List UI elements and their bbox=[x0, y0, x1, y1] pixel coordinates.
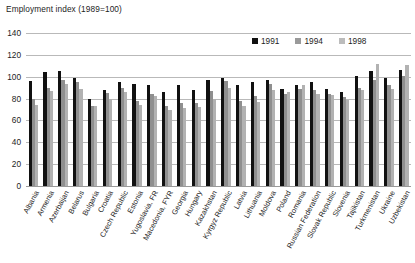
legend-swatch-icon bbox=[295, 38, 301, 44]
x-label-slot: Slovak Republic bbox=[322, 188, 337, 262]
bar-group bbox=[159, 33, 174, 186]
legend-item: 1991 bbox=[252, 36, 279, 46]
bar bbox=[391, 89, 394, 186]
bar-group bbox=[100, 33, 115, 186]
bar bbox=[139, 105, 142, 186]
bar bbox=[405, 65, 408, 186]
y-tick-label-0: 0 bbox=[16, 181, 21, 191]
employment-index-chart: Employment index (1989=100) 020406080100… bbox=[0, 0, 415, 263]
bar-group bbox=[115, 33, 130, 186]
bar bbox=[35, 105, 38, 186]
chart-legend: 199119941998 bbox=[252, 36, 366, 46]
gridline-0 bbox=[26, 186, 411, 187]
bar bbox=[213, 99, 216, 186]
bar bbox=[65, 84, 68, 186]
bar bbox=[94, 106, 97, 186]
bar-group bbox=[382, 33, 397, 186]
bar bbox=[228, 88, 231, 186]
x-label-slot: Macedonia, FYR bbox=[159, 188, 174, 262]
bar bbox=[124, 92, 127, 186]
x-label-slot: Lithuania bbox=[248, 188, 263, 262]
x-label-slot: Azerbaijan bbox=[56, 188, 71, 262]
bar-group bbox=[396, 33, 411, 186]
bar-group bbox=[307, 33, 322, 186]
x-label-slot: Belarus bbox=[70, 188, 85, 262]
bar-group bbox=[85, 33, 100, 186]
x-label-slot: Armenia bbox=[41, 188, 56, 262]
chart-title: Employment index (1989=100) bbox=[6, 4, 122, 14]
x-label-slot: Slovenia bbox=[337, 188, 352, 262]
y-tick-label-100: 100 bbox=[7, 72, 21, 82]
bar bbox=[361, 90, 364, 186]
y-tick-label-40: 40 bbox=[12, 137, 21, 147]
bar bbox=[302, 85, 305, 186]
bar-group bbox=[352, 33, 367, 186]
y-tick-label-120: 120 bbox=[7, 50, 21, 60]
x-label-slot: Uzbekistan bbox=[396, 188, 411, 262]
x-axis-labels: AlbaniaArmeniaAzerbaijanBelarusBulgariaC… bbox=[26, 188, 411, 262]
legend-label: 1994 bbox=[304, 36, 322, 46]
bar bbox=[272, 90, 275, 186]
bar-group bbox=[293, 33, 308, 186]
bar-group bbox=[263, 33, 278, 186]
legend-item: 1998 bbox=[339, 36, 366, 46]
bar-group bbox=[41, 33, 56, 186]
y-tick-label-60: 60 bbox=[12, 115, 21, 125]
bar-group bbox=[219, 33, 234, 186]
legend-label: 1991 bbox=[261, 36, 279, 46]
bar-group bbox=[26, 33, 41, 186]
bars-layer bbox=[26, 33, 411, 186]
legend-item: 1994 bbox=[295, 36, 322, 46]
x-label-slot: Turkmenistan bbox=[367, 188, 382, 262]
bar bbox=[168, 110, 171, 187]
bar bbox=[79, 89, 82, 186]
x-label-slot: Poland bbox=[278, 188, 293, 262]
bar-group bbox=[70, 33, 85, 186]
bar bbox=[287, 92, 290, 186]
bar bbox=[316, 94, 319, 186]
x-label-slot: Czech Republic bbox=[115, 188, 130, 262]
x-label-slot: Latvia bbox=[233, 188, 248, 262]
bar-group bbox=[367, 33, 382, 186]
bar bbox=[242, 106, 245, 186]
bar-group bbox=[233, 33, 248, 186]
bar-group bbox=[322, 33, 337, 186]
x-label-slot: Bulgaria bbox=[85, 188, 100, 262]
bar bbox=[346, 100, 349, 186]
bar-group bbox=[189, 33, 204, 186]
bar bbox=[198, 107, 201, 186]
legend-swatch-icon bbox=[252, 38, 258, 44]
bar bbox=[183, 108, 186, 186]
bar-group bbox=[204, 33, 219, 186]
y-tick-label-140: 140 bbox=[7, 28, 21, 38]
bar-group bbox=[248, 33, 263, 186]
plot-area bbox=[26, 33, 411, 186]
y-axis: 020406080100120140 bbox=[0, 33, 24, 186]
bar-group bbox=[56, 33, 71, 186]
bar bbox=[376, 64, 379, 186]
bar-group bbox=[337, 33, 352, 186]
bar-group bbox=[174, 33, 189, 186]
bar bbox=[257, 102, 260, 186]
bar bbox=[331, 95, 334, 186]
bar-group bbox=[278, 33, 293, 186]
legend-swatch-icon bbox=[339, 38, 345, 44]
legend-label: 1998 bbox=[348, 36, 366, 46]
x-label-slot: Albania bbox=[26, 188, 41, 262]
bar bbox=[109, 99, 112, 186]
x-label-slot: Georgia bbox=[174, 188, 189, 262]
y-tick-label-80: 80 bbox=[12, 94, 21, 104]
bar-group bbox=[130, 33, 145, 186]
x-label-slot: Kyrgyz Republic bbox=[219, 188, 234, 262]
bar bbox=[154, 96, 157, 186]
bar-group bbox=[145, 33, 160, 186]
bar bbox=[50, 91, 53, 186]
y-tick-label-20: 20 bbox=[12, 159, 21, 169]
x-label-slot: Moldova bbox=[263, 188, 278, 262]
